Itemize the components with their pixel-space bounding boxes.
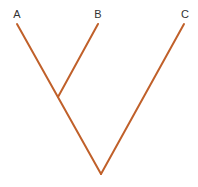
cladogram: A B C [0, 0, 198, 187]
branch-b-to-junction [58, 24, 98, 97]
taxon-label-c: C [181, 8, 189, 20]
branch-c-to-root [101, 24, 184, 174]
taxon-label-a: A [13, 8, 21, 20]
branches [17, 24, 184, 174]
branch-a-to-root [17, 24, 101, 174]
taxon-label-b: B [94, 8, 101, 20]
